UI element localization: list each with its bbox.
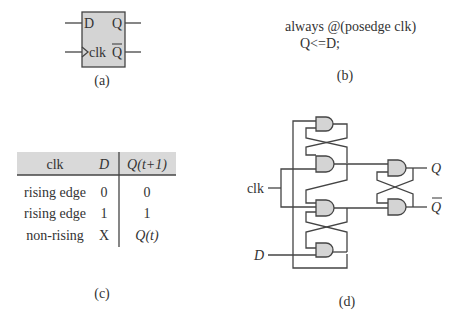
code-line-2: Q<=D;	[300, 36, 340, 51]
row-1-clk: rising edge	[24, 185, 86, 200]
panel-a-ff-symbol: D Q clk Q (a)	[65, 12, 141, 89]
d-label: D	[253, 248, 264, 263]
header-q-next: Q(t+1)	[127, 157, 167, 173]
caption-a: (a)	[94, 73, 110, 89]
port-d-label: D	[84, 16, 94, 31]
row-2-clk: rising edge	[24, 206, 86, 221]
panel-b-code: always @(posedge clk) Q<=D; (b)	[285, 19, 416, 84]
clk-label: clk	[247, 181, 264, 196]
port-q-label: Q	[112, 16, 122, 31]
clk-fork-wire	[281, 169, 316, 207]
q-label: Q	[431, 161, 441, 176]
and-gate-4-icon	[316, 243, 333, 257]
header-clk: clk	[46, 157, 63, 172]
row-1-q-next: 0	[144, 185, 151, 200]
panel-c-truth-table: clk D Q(t+1) rising edge 0 0 rising edge…	[17, 152, 176, 302]
code-line-1: always @(posedge clk)	[285, 19, 416, 35]
and-gate-3-icon	[316, 200, 334, 216]
caption-c: (c)	[94, 286, 110, 302]
row-2-d: 1	[101, 206, 108, 221]
caption-b: (b)	[337, 68, 354, 84]
row-3-q-next: Q(t)	[135, 228, 159, 244]
port-clk-label: clk	[89, 45, 106, 60]
qbar-label: Q	[431, 200, 441, 215]
and-gate-6-icon	[388, 199, 406, 215]
and-gate-2-icon	[316, 156, 334, 172]
row-3-d: X	[99, 228, 109, 243]
header-d: D	[98, 157, 109, 172]
d-flip-flop-figure: D Q clk Q (a) always @(posedge clk) Q<=D…	[0, 0, 460, 322]
and-gate-1-icon	[316, 117, 333, 131]
caption-d: (d)	[339, 294, 356, 310]
row-2-q-next: 1	[144, 206, 151, 221]
panel-d-circuit: clk D Q Q (d)	[247, 117, 442, 310]
row-3-clk: non-rising	[26, 228, 84, 243]
and-gate-5-icon	[388, 160, 406, 176]
port-qbar-label: Q	[112, 45, 122, 60]
row-1-d: 0	[101, 185, 108, 200]
